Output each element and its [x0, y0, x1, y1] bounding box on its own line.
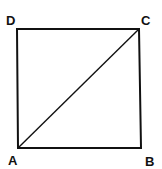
- vertex-label-d: D: [6, 13, 15, 28]
- square-diagram: D C A B: [0, 0, 162, 169]
- diagonal-ac: [18, 29, 139, 148]
- vertex-label-b: B: [145, 154, 154, 169]
- vertex-label-a: A: [8, 153, 18, 168]
- vertex-label-c: C: [141, 13, 151, 28]
